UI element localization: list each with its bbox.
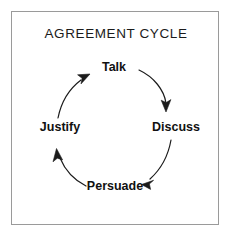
edge-justify-to-talk-arrowhead [78, 74, 90, 84]
cycle-node-persuade: Persuade [75, 180, 155, 193]
edge-discuss-to-persuade-arc [150, 140, 171, 179]
cycle-node-justify-label: Justify [20, 121, 100, 134]
edge-justify-to-talk [58, 74, 90, 118]
edge-talk-to-discuss-arc [139, 70, 166, 103]
cycle-arrows-group [0, 0, 232, 238]
cycle-node-talk-label: Talk [74, 61, 154, 74]
cycle-node-discuss: Discuss [136, 121, 216, 134]
cycle-node-talk: Talk [74, 61, 154, 74]
cycle-node-persuade-label: Persuade [75, 180, 155, 193]
edge-talk-to-discuss [139, 70, 171, 112]
agreement-cycle-figure: AGREEMENT CYCLE Talk Discuss Persuade [0, 0, 232, 238]
edge-justify-to-talk-arc [58, 80, 81, 118]
cycle-node-justify: Justify [20, 121, 100, 134]
cycle-node-discuss-label: Discuss [136, 121, 216, 134]
